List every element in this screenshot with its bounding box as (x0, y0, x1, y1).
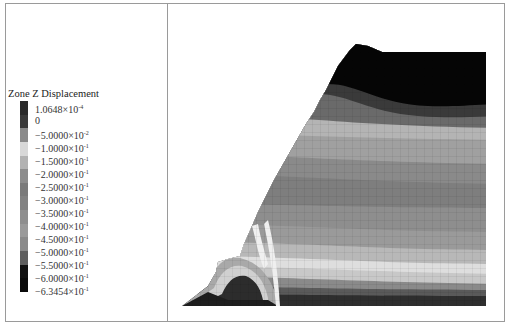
legend-swatch (20, 224, 28, 238)
legend-label: −5.0000×10-1 (35, 244, 89, 257)
legend-colorbar (20, 101, 28, 292)
legend-swatch (20, 128, 28, 142)
legend-swatch (20, 196, 28, 210)
contour-plot (168, 4, 504, 321)
legend-title: Zone Z Displacement (8, 88, 99, 99)
legend-swatch (20, 278, 28, 292)
legend-label: −5.5000×10-1 (35, 257, 89, 270)
legend-swatch (20, 169, 28, 183)
legend-swatch (20, 101, 28, 115)
legend-label: −4.5000×10-1 (35, 231, 89, 244)
legend-label: −6.3454×10-1 (35, 283, 89, 296)
legend-label: −6.0000×10-1 (35, 270, 89, 283)
legend-label: −2.5000×10-1 (35, 179, 89, 192)
legend-labels: 1.0648×10-40−5.0000×10-2−1.0000×10-1−1.5… (35, 101, 89, 296)
legend-label: −3.0000×10-1 (35, 192, 89, 205)
legend-swatch (20, 183, 28, 197)
legend-label: −4.0000×10-1 (35, 218, 89, 231)
slope-body (168, 4, 504, 321)
legend-swatch (20, 142, 28, 156)
legend-label: −1.0000×10-1 (35, 140, 89, 153)
legend-swatch (20, 115, 28, 129)
legend-label: −3.5000×10-1 (35, 205, 89, 218)
legend-swatch (20, 265, 28, 279)
legend-label: −1.5000×10-1 (35, 153, 89, 166)
legend-swatch (20, 251, 28, 265)
legend-label: −5.0000×10-2 (35, 127, 89, 140)
legend-label: 1.0648×10-4 (35, 101, 89, 114)
legend-swatch (20, 156, 28, 170)
legend-swatch (20, 237, 28, 251)
legend-label: −2.0000×10-1 (35, 166, 89, 179)
legend-swatch (20, 210, 28, 224)
legend-label: 0 (35, 114, 89, 127)
